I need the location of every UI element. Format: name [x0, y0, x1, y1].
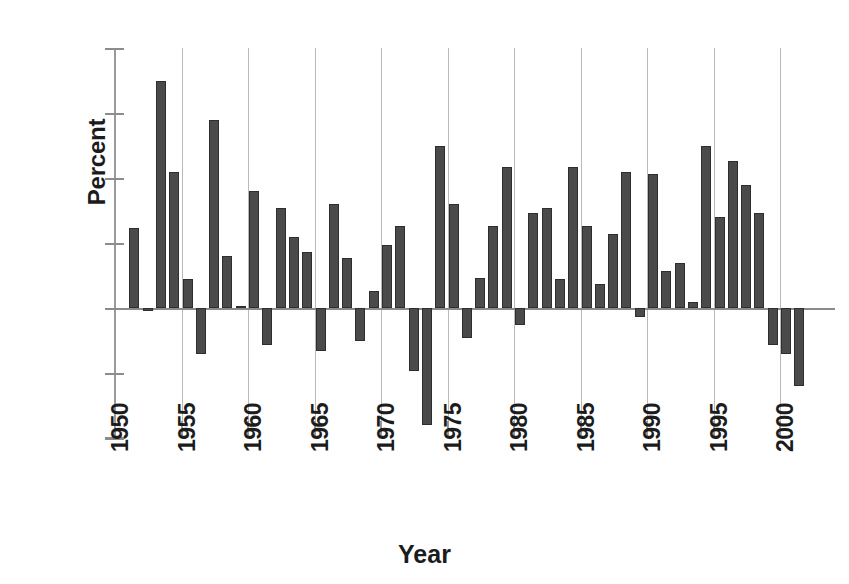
bar	[621, 172, 631, 309]
bar	[675, 263, 685, 309]
x-tick-label: 1960	[240, 372, 267, 452]
bar	[475, 278, 485, 308]
bar	[342, 258, 352, 308]
bar	[555, 279, 565, 308]
bar	[382, 245, 392, 308]
bar	[701, 146, 711, 309]
x-tick-label: 1980	[506, 372, 533, 452]
bar	[741, 185, 751, 309]
bar	[715, 217, 725, 308]
bar	[156, 81, 166, 309]
x-axis-title: Year	[0, 540, 849, 569]
bar	[728, 161, 738, 308]
bar	[582, 226, 592, 308]
x-tick-label: 1955	[174, 372, 201, 452]
bar	[196, 308, 206, 354]
bar	[316, 308, 326, 351]
bar	[435, 146, 445, 309]
x-tick-label: 1990	[639, 372, 666, 452]
bar	[222, 256, 232, 308]
x-tick-label: 1970	[373, 372, 400, 452]
x-tick-label: 1950	[107, 372, 134, 452]
bar	[595, 284, 605, 308]
bar-chart: Percent 604530150-15-30 1950195519601965…	[0, 0, 849, 584]
bar	[143, 308, 153, 311]
bar	[781, 308, 791, 354]
bar	[449, 204, 459, 308]
bar	[409, 308, 419, 371]
bar	[276, 208, 286, 308]
y-axis-title: Percent	[83, 62, 111, 262]
bar	[661, 271, 671, 308]
bar	[608, 234, 618, 308]
bar	[262, 308, 272, 345]
bar	[395, 226, 405, 308]
bar	[183, 279, 193, 308]
bar	[488, 226, 498, 308]
bar	[302, 252, 312, 308]
bar	[422, 308, 432, 425]
bar	[129, 228, 139, 308]
bar	[502, 167, 512, 308]
x-tick-label: 1985	[573, 372, 600, 452]
bar	[289, 237, 299, 309]
bar	[635, 308, 645, 317]
x-tick-label: 1995	[706, 372, 733, 452]
bar	[249, 191, 259, 308]
bar	[528, 213, 538, 308]
bar	[369, 291, 379, 308]
bar	[768, 308, 778, 345]
x-tick-label: 1975	[440, 372, 467, 452]
bar	[688, 302, 698, 309]
bar	[542, 208, 552, 308]
bar	[236, 306, 246, 308]
bar	[462, 308, 472, 338]
bar	[648, 174, 658, 308]
bar	[329, 204, 339, 308]
bar	[754, 213, 764, 308]
x-tick-label: 2000	[772, 372, 799, 452]
bar	[355, 308, 365, 341]
bar	[169, 172, 179, 309]
bar	[209, 120, 219, 309]
bar	[568, 167, 578, 308]
x-tick-label: 1965	[307, 372, 334, 452]
bar	[515, 308, 525, 325]
